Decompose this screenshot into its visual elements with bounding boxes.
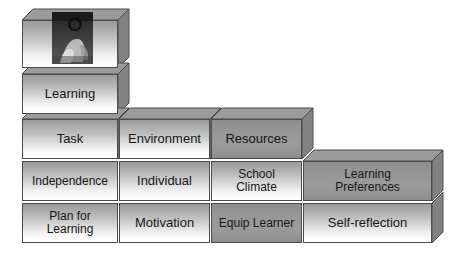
block-school-climate[interactable]: School Climate <box>211 161 302 201</box>
block-front-face: Task <box>22 119 118 159</box>
block-front-face: Motivation <box>119 203 210 243</box>
block-label: Independence <box>29 175 111 188</box>
block-label: Task <box>54 132 87 146</box>
block-front-face: Individual <box>119 161 210 201</box>
block-label-line2: Learning <box>44 223 97 236</box>
block-label: Plan for Learning <box>44 210 97 236</box>
diagram-canvas: Learning Task Environment Resources <box>0 0 466 256</box>
photo-graphic <box>52 12 93 64</box>
block-front-face: Environment <box>119 119 210 159</box>
block-learning-preferences[interactable]: Learning Preferences <box>303 161 432 201</box>
block-motivation[interactable]: Motivation <box>119 203 210 243</box>
block-plan-for-learning[interactable]: Plan for Learning <box>22 203 118 243</box>
block-front-face: Self-reflection <box>303 203 432 243</box>
block-front-face: Resources <box>211 119 302 159</box>
block-equip-learner[interactable]: Equip Learner <box>211 203 302 243</box>
block-front-face: Equip Learner <box>211 203 302 243</box>
block-individual[interactable]: Individual <box>119 161 210 201</box>
block-front-face: Learning Preferences <box>303 161 432 201</box>
block-label: Learning <box>42 87 99 101</box>
block-front-face: Plan for Learning <box>22 203 118 243</box>
block-label-line2: Preferences <box>332 181 403 194</box>
block-label: Environment <box>125 132 204 146</box>
block-label: Learning Preferences <box>332 168 403 194</box>
block-front-face: School Climate <box>211 161 302 201</box>
block-front-face: Independence <box>22 161 118 201</box>
block-self-reflection[interactable]: Self-reflection <box>303 203 432 243</box>
block-independence[interactable]: Independence <box>22 161 118 201</box>
learner-photo <box>52 12 93 64</box>
block-label: Individual <box>134 174 195 188</box>
block-front-face: Learning <box>22 74 118 114</box>
block-label: Equip Learner <box>216 217 297 230</box>
block-resources[interactable]: Resources <box>211 119 302 159</box>
block-task[interactable]: Task <box>22 119 118 159</box>
block-label-line2: Climate <box>233 181 280 194</box>
block-learning[interactable]: Learning <box>22 74 118 114</box>
block-label: School Climate <box>233 168 280 194</box>
block-label: Motivation <box>132 216 197 230</box>
block-label: Resources <box>222 132 290 146</box>
block-label: Self-reflection <box>325 216 410 230</box>
block-environment[interactable]: Environment <box>119 119 210 159</box>
